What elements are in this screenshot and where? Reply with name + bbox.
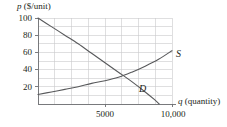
y-tick-label-60: 60 bbox=[6, 47, 32, 57]
y-axis-unit: ($/unit) bbox=[22, 1, 51, 11]
y-tick-label-80: 80 bbox=[6, 30, 32, 40]
x-axis-unit: (quantity) bbox=[183, 96, 221, 106]
x-axis-title: q (quantity) bbox=[178, 96, 220, 106]
x-tick-label-5000: 5000 bbox=[96, 109, 114, 119]
supply-curve-label: S bbox=[176, 48, 181, 59]
y-tick-label-40: 40 bbox=[6, 64, 32, 74]
x-tick-label-10000: 10,000 bbox=[161, 109, 186, 119]
y-tick-label-100: 100 bbox=[6, 13, 32, 23]
demand-curve-label: D bbox=[139, 83, 146, 94]
chart-screenshot: p ($/unit) q (quantity) 100 80 60 40 20 … bbox=[0, 0, 227, 127]
y-tick-label-20: 20 bbox=[6, 82, 32, 92]
y-axis-title: p ($/unit) bbox=[17, 1, 51, 11]
supply-demand-chart bbox=[0, 0, 227, 127]
